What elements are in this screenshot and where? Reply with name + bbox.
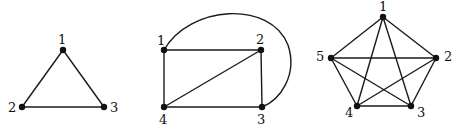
vertex-label-1: 1 [157,33,165,48]
vertex-label-2: 2 [8,100,16,115]
vertex-label-5: 5 [316,49,324,64]
complete-graph-k5: 12345 [316,0,452,120]
vertex-4 [161,104,167,110]
vertex-label-4: 4 [159,112,167,127]
edge-3-5 [331,58,411,106]
vertex-label-4: 4 [345,105,353,120]
vertex-4 [354,103,360,109]
vertex-label-3: 3 [110,100,118,115]
vertex-1 [60,47,66,53]
vertex-label-2: 2 [444,49,452,64]
vertex-2 [433,55,439,61]
vertex-2 [258,47,264,53]
vertex-3 [259,104,265,110]
curved-edge-1-3 [164,14,291,107]
edge-1-2 [22,50,63,107]
graph-diagram-canvas: 123 1234 12345 [0,0,467,130]
vertex-1 [380,14,386,20]
vertex-3 [408,103,414,109]
vertex-2 [19,104,25,110]
vertex-label-3: 3 [417,105,425,120]
vertex-label-1: 1 [379,0,387,14]
edge-1-3 [383,17,411,106]
edge-4-2 [164,50,261,107]
vertex-5 [328,55,334,61]
vertex-label-1: 1 [58,32,66,47]
edge-1-5 [331,17,383,58]
edge-2-3 [261,50,262,107]
complete-graph-k3: 123 [8,32,118,115]
vertex-label-2: 2 [256,32,264,47]
edge-1-3 [63,50,104,107]
vertex-label-3: 3 [257,112,265,127]
vertex-3 [101,104,107,110]
edge-1-2 [383,17,436,58]
complete-graph-k4: 1234 [157,14,291,127]
